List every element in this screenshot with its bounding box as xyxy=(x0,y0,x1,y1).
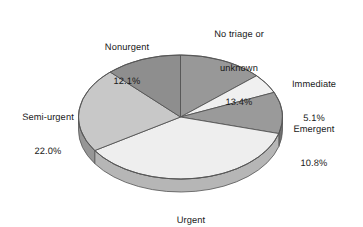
slice-label-name: Immediate xyxy=(268,79,360,90)
pie-chart: No triage or unknown 13.4% Immediate 5.1… xyxy=(0,0,363,227)
slice-label-nonurgent: Nonurgent 12.1% xyxy=(82,19,172,110)
slice-label-value: 12.1% xyxy=(82,76,172,87)
slice-label-urgent: Urgent 36.6% xyxy=(148,192,234,227)
slice-label-name: Urgent xyxy=(148,215,234,226)
slice-label-value: 22.0% xyxy=(2,146,94,157)
slice-label-semi-urgent: Semi-urgent 22.0% xyxy=(2,89,94,180)
slice-label-emergent: Emergent 10.8% xyxy=(268,101,360,192)
slice-label-name: Emergent xyxy=(268,124,360,135)
slice-label-name: Nonurgent xyxy=(82,42,172,53)
slice-label-value: 10.8% xyxy=(268,158,360,169)
slice-label-name: No triage or xyxy=(196,29,282,40)
slice-label-name: Semi-urgent xyxy=(2,112,94,123)
